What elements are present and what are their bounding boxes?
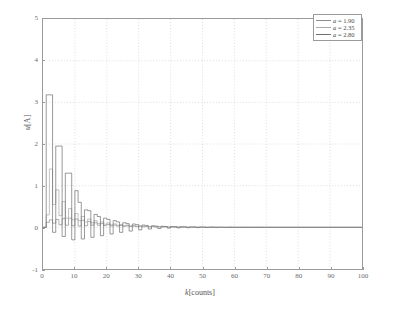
x-tick-mark: [267, 267, 268, 270]
x-tick-mark: [331, 267, 332, 270]
legend-item[interactable]: a = 2.80: [316, 31, 359, 38]
legend-item[interactable]: a = 2.35: [316, 24, 359, 31]
series-line: [43, 95, 362, 240]
legend-box: a = 1.90a = 2.35a = 2.80: [313, 14, 362, 41]
y-tick-label: 1: [22, 182, 38, 190]
x-tick-label: 10: [71, 272, 78, 280]
y-axis-label: u[A]: [23, 93, 32, 153]
y-tick-label: -1: [22, 266, 38, 274]
plot-area: [42, 18, 363, 270]
legend-label: a = 2.80: [333, 31, 355, 38]
x-axis-label: k[counts]: [0, 288, 400, 297]
x-tick-mark: [138, 267, 139, 270]
legend-label: a = 2.35: [333, 24, 355, 31]
x-tick-label: 100: [358, 272, 369, 280]
x-tick-mark: [363, 267, 364, 270]
y-tick-label: 4: [22, 56, 38, 64]
y-tick-label: 5: [22, 14, 38, 22]
legend-swatch: [316, 34, 331, 35]
y-tick-mark: [42, 228, 45, 229]
y-tick-mark: [42, 60, 45, 61]
x-tick-mark: [235, 267, 236, 270]
x-tick-label: 20: [103, 272, 110, 280]
x-tick-mark: [74, 267, 75, 270]
x-tick-label: 90: [327, 272, 334, 280]
y-tick-mark: [42, 102, 45, 103]
data-series-layer: [43, 19, 362, 269]
y-tick-label: 0: [22, 224, 38, 232]
legend-swatch: [316, 27, 331, 28]
y-axis-symbol: u: [23, 126, 32, 130]
y-tick-mark: [42, 18, 45, 19]
x-tick-mark: [106, 267, 107, 270]
x-tick-mark: [299, 267, 300, 270]
legend-item[interactable]: a = 1.90: [316, 17, 359, 24]
x-tick-label: 50: [199, 272, 206, 280]
y-tick-mark: [42, 270, 45, 271]
y-tick-mark: [42, 144, 45, 145]
x-tick-label: 30: [135, 272, 142, 280]
x-tick-mark: [203, 267, 204, 270]
x-axis-unit: [counts]: [189, 288, 215, 297]
x-tick-label: 0: [40, 272, 44, 280]
y-tick-mark: [42, 186, 45, 187]
legend-label: a = 1.90: [333, 17, 355, 24]
legend-swatch: [316, 20, 331, 21]
x-tick-label: 80: [295, 272, 302, 280]
x-tick-label: 60: [231, 272, 238, 280]
x-tick-mark: [170, 267, 171, 270]
figure-canvas: 0102030405060708090100543210-1 u[A] k[co…: [0, 0, 400, 311]
x-tick-label: 40: [167, 272, 174, 280]
y-axis-unit: [A]: [23, 115, 32, 126]
x-tick-label: 70: [263, 272, 270, 280]
